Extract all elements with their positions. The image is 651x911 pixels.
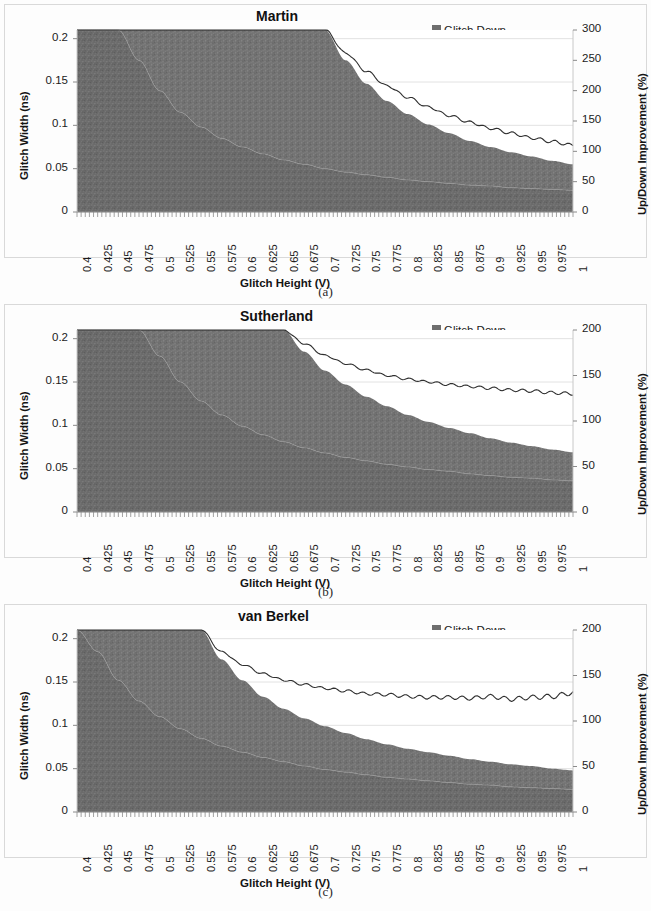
panel-a-xtick: 0.65	[288, 251, 300, 272]
panel-b-xtick: 0.925	[515, 544, 527, 572]
panel-c-xtick: 0.65	[288, 851, 300, 872]
panel-b-xtick: 0.4	[81, 557, 93, 572]
panel-c-chart	[0, 600, 651, 862]
panel-c-xtick: 1	[577, 866, 589, 872]
panel-c-ytick-left: 0.15	[30, 674, 68, 686]
panel-c-ytick-left: 0.2	[30, 631, 68, 643]
panel-b-xtick: 0.625	[267, 544, 279, 572]
panel-b-xtick: 0.525	[184, 544, 196, 572]
panel-c-xtick: 0.7	[329, 857, 341, 872]
panel-b: Sutherland Glitch Width (ns) Up/Down Imp…	[0, 300, 651, 600]
panel-b-xtick: 0.75	[370, 551, 382, 572]
panel-a-xtick: 0.675	[308, 244, 320, 272]
panel-b-xtick: 0.6	[246, 557, 258, 572]
panel-a-xtick: 0.925	[515, 244, 527, 272]
panel-c-xtick: 0.775	[391, 844, 403, 872]
panel-c-xtick: 0.4	[81, 857, 93, 872]
panel-a-xtick: 0.45	[122, 251, 134, 272]
panel-a-xtick: 1	[577, 266, 589, 272]
panel-b-xtick: 0.5	[164, 557, 176, 572]
panel-a-xtick: 0.4	[81, 257, 93, 272]
panel-c-xtick: 0.875	[474, 844, 486, 872]
panel-a-ytick-left: 0.1	[30, 117, 68, 129]
panel-c-xtick: 0.85	[453, 851, 465, 872]
panel-c-xtick: 0.575	[226, 844, 238, 872]
panel-b-xtick: 0.725	[350, 544, 362, 572]
panel-b-ytick-right: 50	[582, 459, 618, 471]
panel-b-ytick-left: 0.05	[30, 461, 68, 473]
panel-a-ytick-right: 150	[582, 113, 618, 125]
panel-b-xtick: 0.9	[494, 557, 506, 572]
panel-a-xtick: 0.5	[164, 257, 176, 272]
panel-c-xtick: 0.95	[536, 851, 548, 872]
panel-a-ytick-right: 300	[582, 22, 618, 34]
panel-c-xtick: 0.45	[122, 851, 134, 872]
panel-a-xtick: 0.85	[453, 251, 465, 272]
panel-a-xtick: 0.425	[102, 244, 114, 272]
panel-a-ytick-left: 0	[30, 204, 68, 216]
panel-a-xtick: 0.8	[412, 257, 424, 272]
panel-a-xtick: 0.875	[474, 244, 486, 272]
panel-a-xtick: 0.475	[143, 244, 155, 272]
panel-c-ytick-left: 0	[30, 804, 68, 816]
panel-b-xtick: 0.825	[432, 544, 444, 572]
panel-c-caption: (c)	[0, 884, 651, 900]
panel-a-xtick: 0.575	[226, 244, 238, 272]
panel-a-chart	[0, 0, 651, 262]
panel-c-plot-container: van Berkel Glitch Width (ns) Up/Down Imp…	[0, 600, 651, 862]
panel-b-ytick-right: 200	[582, 322, 618, 334]
panel-c-xtick: 0.5	[164, 857, 176, 872]
panel-c-xtick: 0.55	[205, 851, 217, 872]
panel-a-xtick: 0.7	[329, 257, 341, 272]
panel-c-ytick-right: 50	[582, 759, 618, 771]
figure-root: Martin Glitch Width (ns) Up/Down Improve…	[0, 0, 651, 911]
panel-c-xtick: 0.625	[267, 844, 279, 872]
panel-c-ytick-right: 100	[582, 713, 618, 725]
panel-b-caption: (b)	[0, 584, 651, 600]
panel-b-xtick: 0.975	[556, 544, 568, 572]
panel-c-xtick: 0.6	[246, 857, 258, 872]
panel-b-ytick-right: 0	[582, 504, 618, 516]
panel-c-xtick: 0.725	[350, 844, 362, 872]
panel-a-xtick: 0.55	[205, 251, 217, 272]
panel-b-chart	[0, 300, 651, 562]
panel-b-xtick: 0.45	[122, 551, 134, 572]
panel-b-xtick: 0.575	[226, 544, 238, 572]
panel-a-xtick: 0.725	[350, 244, 362, 272]
panel-a-xtick: 0.95	[536, 251, 548, 272]
panel-c-ytick-right: 200	[582, 622, 618, 634]
panel-a-ytick-right: 250	[582, 52, 618, 64]
panel-c: van Berkel Glitch Width (ns) Up/Down Imp…	[0, 600, 651, 900]
panel-c-xtick: 0.975	[556, 844, 568, 872]
panel-c-ytick-right: 0	[582, 804, 618, 816]
panel-b-xtick: 0.7	[329, 557, 341, 572]
panel-b-ytick-right: 100	[582, 413, 618, 425]
panel-b-xtick: 0.425	[102, 544, 114, 572]
panel-b-xtick: 0.65	[288, 551, 300, 572]
panel-b-xtick: 0.85	[453, 551, 465, 572]
panel-c-xtick: 0.825	[432, 844, 444, 872]
panel-c-xtick: 0.675	[308, 844, 320, 872]
panel-a-ytick-right: 200	[582, 83, 618, 95]
panel-c-ytick-left: 0.05	[30, 761, 68, 773]
panel-a-caption: (a)	[0, 284, 651, 300]
panel-a-ytick-right: 100	[582, 143, 618, 155]
panel-a-plot-container: Martin Glitch Width (ns) Up/Down Improve…	[0, 0, 651, 262]
panel-c-xtick: 0.425	[102, 844, 114, 872]
panel-c-xtick: 0.75	[370, 851, 382, 872]
panel-b-xtick: 0.55	[205, 551, 217, 572]
panel-b-ytick-left: 0	[30, 504, 68, 516]
panel-b-ytick-left: 0.2	[30, 331, 68, 343]
panel-a-ytick-right: 0	[582, 204, 618, 216]
panel-c-xtick: 0.525	[184, 844, 196, 872]
panel-a-ytick-left: 0.05	[30, 161, 68, 173]
panel-a-ytick-right: 50	[582, 174, 618, 186]
panel-c-xtick: 0.475	[143, 844, 155, 872]
panel-c-xtick: 0.925	[515, 844, 527, 872]
panel-b-xtick: 0.95	[536, 551, 548, 572]
panel-a-ytick-left: 0.15	[30, 74, 68, 86]
panel-b-xtick: 0.8	[412, 557, 424, 572]
panel-b-plot-container: Sutherland Glitch Width (ns) Up/Down Imp…	[0, 300, 651, 562]
panel-a-xtick: 0.975	[556, 244, 568, 272]
panel-b-xtick: 0.475	[143, 544, 155, 572]
